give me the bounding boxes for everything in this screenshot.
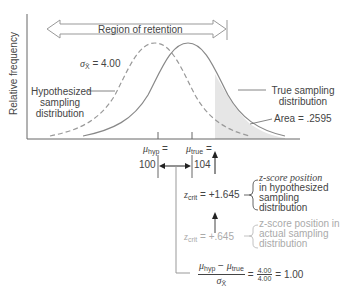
true-sampling-label: True sampling distribution	[267, 85, 339, 107]
formula-denominator: σX̄	[217, 275, 227, 289]
mu-hyp-subscript: hyp	[148, 148, 159, 155]
effect-formula: μhyp − μtrue σX̄ = 4.00 4.00 = 1.00	[198, 260, 303, 289]
formula-value-numerator: 4.00	[257, 267, 273, 275]
formula-value-denominator: 4.00	[258, 275, 272, 282]
zcrit-hyp-description: z-score position in hypothesized samplin…	[259, 173, 329, 213]
zcrit-actual-desc-line3: distribution	[259, 239, 340, 249]
hypothesized-label-line2: sampling	[31, 97, 89, 108]
difference-arrow-left-head	[159, 163, 165, 169]
mu-hyp-eq: =	[162, 143, 168, 154]
area-label-leader	[250, 119, 272, 124]
formula-value-fraction: 4.00 4.00	[257, 267, 273, 282]
mu-hyp-value: 100	[139, 159, 156, 170]
zcrit-hyp-subscript: crit	[188, 194, 197, 201]
area-label: Area = .2595	[274, 113, 332, 124]
diagram-canvas	[0, 0, 349, 295]
zcrit-actual-label: zcrit = +.645	[184, 231, 234, 245]
mu-hyp-label: μhyp =	[143, 143, 168, 157]
sigma-label: σX̄ = 4.00	[80, 58, 120, 72]
zcrit-actual-description: z-score position in actual sampling dist…	[259, 219, 340, 249]
zcrit-hyp-label: zcrit = +1.645	[184, 189, 240, 203]
mu-true-subscript: true	[191, 148, 203, 155]
true-label-line2: distribution	[267, 96, 339, 107]
formula-numerator: μhyp − μtrue	[198, 260, 245, 275]
sigma-value: = 4.00	[92, 58, 120, 69]
zcrit-hyp-desc-line4: distribution	[259, 203, 329, 213]
formula-mu-true-sub: true	[232, 265, 244, 272]
zactual-up-arrow-head	[212, 212, 218, 219]
difference-arrow-right-head	[185, 163, 191, 169]
mu-true-value: 104	[194, 159, 211, 170]
formula-mu-hyp-sub: hyp	[204, 265, 215, 272]
y-axis-label: Relative frequency	[8, 29, 19, 119]
formula-sigma-sub: X̄	[222, 280, 227, 287]
hypothesized-label: Hypothesized sampling distribution	[31, 86, 89, 119]
region-of-retention-label: Region of retention	[98, 24, 183, 35]
brace-hyp	[249, 180, 258, 210]
zcrit-up-arrow-head	[212, 151, 218, 158]
zcrit-actual-subscript: crit	[188, 236, 197, 243]
zcrit-hyp-value: = +1.645	[200, 189, 239, 200]
mu-true-eq: =	[206, 143, 212, 154]
formula-main-fraction: μhyp − μtrue σX̄	[198, 260, 245, 289]
true-curve	[83, 43, 285, 136]
brace-actual	[249, 225, 258, 248]
mu-true-label: μtrue =	[186, 143, 212, 157]
sigma-subscript: X̄	[85, 63, 90, 70]
formula-result: = 1.00	[275, 269, 303, 280]
hypothesized-label-line1: Hypothesized	[31, 86, 89, 97]
true-label-line1: True sampling	[267, 85, 339, 96]
zcrit-actual-value: = +.645	[200, 231, 234, 242]
formula-equals: =	[248, 269, 254, 280]
hypothesized-label-line3: distribution	[31, 108, 89, 119]
formula-minus: −	[215, 260, 226, 271]
formula-flow-line	[176, 166, 190, 273]
